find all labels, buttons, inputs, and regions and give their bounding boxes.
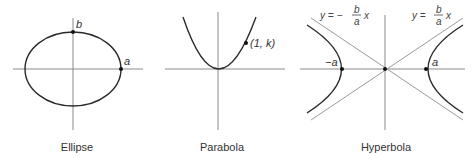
hyperbola-label-neg-a: −a [325, 56, 338, 68]
asymptote-equation-positive: y = b a x [411, 4, 452, 27]
hyperbola-center-point [383, 67, 387, 71]
ellipse-label-a: a [124, 55, 130, 67]
eq-neg-num: b [354, 4, 360, 15]
hyperbola-point-a [424, 67, 428, 71]
eq-neg-den: a [354, 16, 360, 27]
eq-pos-var: x [445, 10, 452, 21]
ellipse-point-a [119, 67, 123, 71]
hyperbola-label-a: a [432, 56, 438, 68]
parabola-figure: (1, k) [165, 12, 285, 130]
parabola-point [244, 41, 248, 45]
asymptote-equation-negative: y = − b a x [319, 4, 370, 27]
ellipse-point-b [71, 30, 75, 34]
eq-pos-num: b [436, 4, 442, 15]
eq-pos-lhs: y = [411, 10, 426, 21]
parabola-caption: Parabola [162, 141, 282, 153]
ellipse-caption: Ellipse [17, 141, 137, 153]
eq-pos-den: a [436, 16, 442, 27]
ellipse-figure: b a [13, 18, 143, 130]
conic-sections-diagram: b a (1, k) −a a y = − b a x y = [0, 0, 476, 158]
ellipse-label-b: b [76, 18, 82, 30]
eq-neg-lhs: y = − [319, 10, 342, 21]
eq-neg-var: x [363, 10, 370, 21]
hyperbola-caption: Hyperbola [326, 141, 446, 153]
hyperbola-figure: −a a y = − b a x y = b a x [300, 4, 465, 130]
hyperbola-point-neg-a [340, 67, 344, 71]
parabola-label-point: (1, k) [250, 37, 275, 49]
